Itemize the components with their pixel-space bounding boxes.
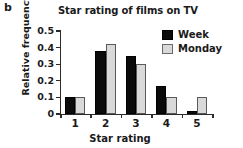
- y-tick-label: 0.1: [30, 92, 54, 102]
- x-tick-label-2: 2: [93, 117, 119, 130]
- y-tick-label-wrap: 0.4: [30, 43, 54, 53]
- bar-monday-2: [106, 44, 116, 114]
- y-tick-label: 0.2: [30, 76, 54, 86]
- y-tick-label-wrap: 0.5: [30, 26, 54, 36]
- bar-monday-1: [75, 97, 85, 114]
- y-tick-label: 0.4: [30, 43, 54, 53]
- x-tick-label-4: 4: [153, 117, 179, 130]
- x-tick-label-3: 3: [123, 117, 149, 130]
- y-axis-label: Relative frequency: [20, 8, 31, 96]
- bar-monday-5: [197, 97, 207, 114]
- y-tick-label: 0.3: [30, 59, 54, 69]
- legend-swatch-monday-icon: [162, 44, 173, 54]
- y-tick-label: 0: [30, 109, 54, 119]
- legend-item-week: Week: [162, 28, 222, 41]
- legend-item-monday: Monday: [162, 42, 222, 55]
- x-tick-label-1: 1: [62, 117, 88, 130]
- panel-label: b: [4, 2, 12, 13]
- chart-figure: b Star rating of films on TV Relative fr…: [0, 0, 243, 148]
- legend-swatch-week-icon: [162, 30, 173, 40]
- y-tick-label-wrap: 0: [30, 109, 54, 119]
- legend-label-monday: Monday: [178, 44, 222, 54]
- chart-title: Star rating of films on TV: [48, 5, 208, 16]
- legend: Week Monday: [162, 28, 222, 56]
- x-tick-label-5: 5: [184, 117, 210, 130]
- y-tick-label-wrap: 0.1: [30, 92, 54, 102]
- x-axis-label: Star rating: [55, 133, 185, 144]
- bar-week-3: [126, 56, 136, 114]
- bar-monday-4: [166, 97, 176, 114]
- bar-week-4: [156, 86, 166, 114]
- bar-week-1: [65, 97, 75, 114]
- bar-week-5: [187, 111, 197, 114]
- x-tick-mark: [212, 114, 214, 118]
- y-tick-label-wrap: 0.3: [30, 59, 54, 69]
- y-tick-label-wrap: 0.2: [30, 76, 54, 86]
- y-tick-label: 0.5: [30, 26, 54, 36]
- bar-week-2: [95, 51, 105, 114]
- legend-label-week: Week: [178, 30, 209, 40]
- bar-monday-3: [136, 64, 146, 114]
